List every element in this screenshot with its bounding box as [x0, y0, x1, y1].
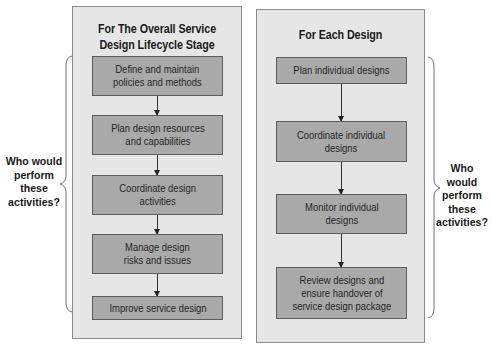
step-define-policies: Define and maintain policies and methods: [92, 56, 223, 96]
arrow-down-icon: [157, 274, 158, 296]
arrow-down-icon: [341, 234, 342, 267]
step-label: Coordinate individual designs: [297, 129, 385, 155]
arrow-down-icon: [157, 215, 158, 234]
step-coordinate-individual: Coordinate individual designs: [276, 121, 407, 162]
arrow-down-icon: [341, 84, 342, 121]
step-label: Define and maintain policies and methods: [113, 63, 202, 89]
arrow-down-icon: [157, 155, 158, 175]
arrow-down-icon: [341, 162, 342, 194]
panel-title-line: Design Lifecycle Stage: [85, 37, 229, 53]
overall-lifecycle-title: For The Overall Service Design Lifecycle…: [85, 21, 229, 53]
overall-lifecycle-panel: For The Overall Service Design Lifecycle…: [72, 6, 242, 339]
step-label: Manage design risks and issues: [124, 241, 191, 267]
step-label: Plan design resources and capabilities: [111, 122, 205, 148]
step-label: Improve service design: [109, 302, 206, 315]
step-label: Plan individual designs: [293, 64, 389, 77]
step-label: Monitor individual designs: [305, 201, 379, 227]
step-plan-individual: Plan individual designs: [276, 57, 407, 84]
each-design-panel: For Each Design Plan individual designs …: [256, 9, 425, 343]
arrow-down-icon: [157, 96, 158, 115]
step-improve-design: Improve service design: [92, 296, 223, 320]
step-review-handover: Review designs and ensure handover of se…: [276, 267, 407, 319]
step-coordinate-activities: Coordinate design activities: [92, 175, 223, 215]
step-plan-resources: Plan design resources and capabilities: [92, 115, 223, 155]
each-design-title: For Each Design: [269, 27, 413, 43]
right-question-label: Who would perform these activities?: [434, 162, 489, 230]
step-manage-risks: Manage design risks and issues: [92, 234, 223, 274]
step-label: Review designs and ensure handover of se…: [292, 274, 391, 313]
panel-title-line: For The Overall Service: [85, 21, 229, 37]
step-monitor-individual: Monitor individual designs: [276, 194, 407, 234]
step-label: Coordinate design activities: [119, 182, 196, 208]
